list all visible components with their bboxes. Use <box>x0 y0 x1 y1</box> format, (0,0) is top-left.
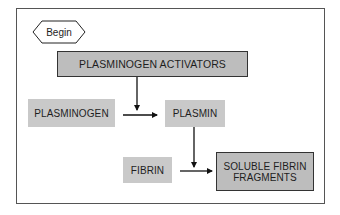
arrows-layer <box>0 0 340 215</box>
